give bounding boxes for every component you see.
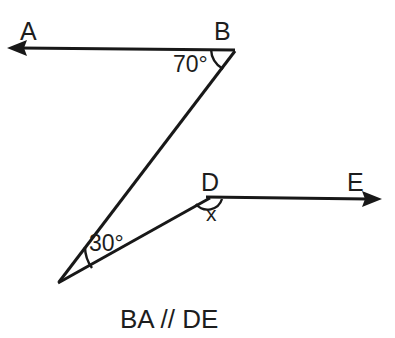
segment-apex-to-d-line — [58, 198, 210, 283]
label-angle-apex: 30° — [89, 230, 124, 256]
caption-parallel-statement: BA // DE — [120, 304, 218, 334]
label-angle-b: 70° — [173, 51, 208, 77]
label-angle-d-unknown: x — [206, 202, 217, 225]
label-point-a: A — [20, 17, 37, 45]
arrow-head-e-icon — [362, 191, 382, 207]
label-point-e: E — [347, 168, 364, 196]
ray-de-line — [206, 197, 368, 199]
label-point-d: D — [201, 168, 219, 196]
label-point-b: B — [214, 17, 231, 45]
geometry-diagram: A B D E 70° 30° x BA // DE — [0, 0, 395, 338]
ray-ba-line — [20, 48, 235, 50]
geometry-canvas: A B D E 70° 30° x BA // DE — [0, 0, 395, 338]
angle-arc-b-icon — [211, 49, 223, 69]
